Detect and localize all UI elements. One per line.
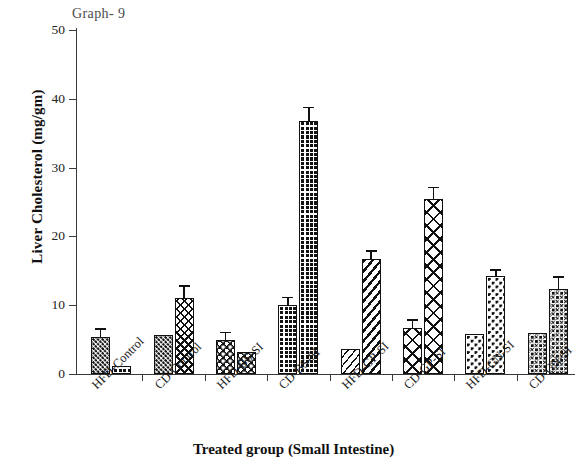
y-tick	[69, 30, 76, 31]
error-bar	[308, 107, 310, 121]
error-bar	[433, 187, 435, 199]
y-axis-title: Liver Cholesterol (mg/gm)	[29, 52, 46, 302]
error-bar-cap	[553, 276, 564, 278]
y-tick	[69, 374, 76, 375]
error-bar	[558, 276, 560, 289]
y-tick-label: 0	[58, 366, 65, 382]
y-tick-label: 20	[52, 228, 66, 244]
error-bar-cap	[366, 250, 377, 252]
bar	[299, 121, 318, 374]
x-tick	[205, 374, 206, 381]
x-tick	[392, 374, 393, 381]
error-bar-cap	[490, 269, 501, 271]
x-tick	[142, 374, 143, 381]
x-tick	[330, 374, 331, 381]
error-bar-cap	[303, 107, 314, 109]
y-tick	[69, 305, 76, 306]
y-tick-label: 10	[52, 297, 66, 313]
y-tick-label: 40	[52, 90, 66, 106]
error-bar-cap	[95, 328, 106, 330]
x-tick	[454, 374, 455, 381]
error-bar-cap	[428, 187, 439, 189]
y-tick	[69, 99, 76, 100]
x-axis-line	[76, 374, 575, 375]
error-bar-cap	[179, 285, 190, 287]
y-tick-label: 50	[52, 22, 66, 38]
plot-area: 01020304050	[76, 28, 575, 375]
graph-number-annotation: Graph- 9	[72, 6, 125, 22]
x-tick	[267, 374, 268, 381]
error-bar	[183, 285, 185, 298]
x-category-label-group: HFD-ControlCD-ControlHFD-BS-SICD-BS-SIHF…	[76, 382, 575, 462]
error-bar-cap	[220, 332, 231, 334]
y-tick	[69, 236, 76, 237]
error-bar-cap	[407, 319, 418, 321]
x-tick	[517, 374, 518, 381]
y-tick	[69, 168, 76, 169]
y-axis-line	[76, 28, 77, 375]
bar-chart-figure: Graph- 9 Liver Cholesterol (mg/gm) Treat…	[0, 0, 587, 470]
error-bar-cap	[282, 297, 293, 299]
y-tick-label: 30	[52, 159, 66, 175]
